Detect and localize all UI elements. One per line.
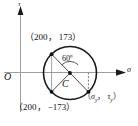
mohr-circle-figure: τ σ O C 60º （200， 173） （200， −173） （σy， … xyxy=(0,0,138,126)
sigma-axis xyxy=(4,69,126,75)
point-bottom-left xyxy=(50,90,54,94)
point-label-top-left: （200， 173） xyxy=(25,33,81,42)
tau-axis xyxy=(18,6,24,112)
label-separator: ， xyxy=(97,92,107,101)
point-label-bottom-right: （σy， τy） xyxy=(83,93,121,103)
origin-label: O xyxy=(4,72,11,82)
tau-axis-label: τ xyxy=(18,1,21,8)
paren-close: ） xyxy=(113,92,121,101)
point-center xyxy=(68,71,72,75)
point-label-bottom-left: （200， −173） xyxy=(14,103,75,112)
angle-label: 60º xyxy=(62,55,72,63)
sigma-axis-label: σ xyxy=(127,66,131,74)
point-top-left xyxy=(50,52,54,56)
radius-to-bottom-right xyxy=(70,73,88,92)
center-label: C xyxy=(62,79,69,89)
paren-open: （ xyxy=(83,92,91,101)
